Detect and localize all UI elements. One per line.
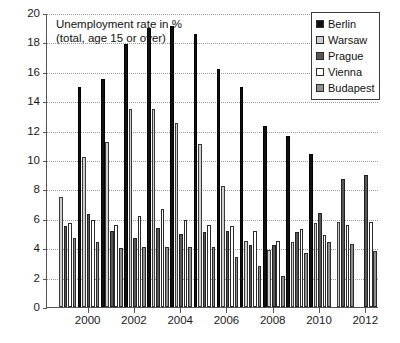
bar-berlin bbox=[217, 69, 221, 307]
x-tick-mark bbox=[365, 308, 366, 313]
bar-berlin bbox=[263, 126, 267, 307]
legend-swatch-prague-icon bbox=[316, 52, 324, 60]
bar-berlin bbox=[286, 136, 290, 307]
legend-swatch-budapest-icon bbox=[316, 84, 324, 92]
y-tick-label: 16 bbox=[6, 67, 40, 79]
x-tick-mark bbox=[88, 308, 89, 313]
bar-vienna bbox=[369, 222, 373, 307]
legend-item-vienna: Vienna bbox=[316, 64, 374, 80]
bar-budapest bbox=[327, 242, 331, 307]
bar-vienna bbox=[300, 229, 304, 307]
bar-berlin bbox=[101, 79, 105, 307]
bar-group bbox=[170, 14, 193, 307]
bar-vienna bbox=[230, 226, 234, 307]
x-tick-label: 2004 bbox=[160, 315, 200, 327]
bar-vienna bbox=[68, 223, 72, 307]
bar-budapest bbox=[304, 253, 308, 307]
bar-warsaw bbox=[175, 123, 179, 307]
bar-budapest bbox=[212, 247, 216, 307]
bar-berlin bbox=[309, 154, 313, 307]
legend-label-warsaw: Warsaw bbox=[328, 35, 367, 46]
bar-budapest bbox=[373, 251, 377, 307]
bar-berlin bbox=[124, 44, 128, 307]
bar-berlin bbox=[78, 87, 82, 308]
bar-budapest bbox=[350, 244, 354, 307]
legend-label-vienna: Vienna bbox=[328, 67, 362, 78]
bar-vienna bbox=[207, 225, 211, 307]
y-tick-label: 6 bbox=[6, 214, 40, 226]
bar-vienna bbox=[276, 241, 280, 307]
bar-group bbox=[216, 14, 239, 307]
legend-swatch-vienna-icon bbox=[316, 68, 324, 76]
bar-berlin bbox=[170, 26, 174, 307]
y-tick-label: 14 bbox=[6, 96, 40, 108]
bar-vienna bbox=[114, 225, 118, 307]
bar-budapest bbox=[142, 247, 146, 307]
bar-group bbox=[77, 14, 100, 307]
bar-warsaw bbox=[337, 222, 341, 307]
x-tick-mark bbox=[319, 308, 320, 313]
bar-prague bbox=[295, 232, 299, 307]
bar-budapest bbox=[188, 247, 192, 307]
legend-item-berlin: Berlin bbox=[316, 16, 374, 32]
bar-group bbox=[285, 14, 308, 307]
legend-label-budapest: Budapest bbox=[328, 83, 374, 94]
bar-vienna bbox=[253, 231, 257, 307]
bar-vienna bbox=[346, 225, 350, 307]
legend-label-berlin: Berlin bbox=[328, 19, 356, 30]
bar-warsaw bbox=[221, 186, 225, 307]
x-tick-mark bbox=[134, 308, 135, 313]
bar-prague bbox=[203, 232, 207, 307]
bar-warsaw bbox=[198, 144, 202, 307]
x-tick-label: 2000 bbox=[68, 315, 108, 327]
bar-vienna bbox=[91, 220, 95, 307]
bar-prague bbox=[133, 238, 137, 307]
legend-item-prague: Prague bbox=[316, 48, 374, 64]
y-tick-label: 18 bbox=[6, 37, 40, 49]
bar-prague bbox=[318, 213, 322, 307]
legend-label-prague: Prague bbox=[328, 51, 363, 62]
bar-warsaw bbox=[314, 223, 318, 307]
bar-warsaw bbox=[152, 109, 156, 307]
bar-prague bbox=[156, 228, 160, 307]
y-tick-mark bbox=[43, 308, 47, 309]
bar-warsaw bbox=[244, 241, 248, 307]
bar-berlin bbox=[194, 34, 198, 307]
bar-prague bbox=[110, 231, 114, 307]
x-tick-mark bbox=[273, 308, 274, 313]
y-tick-label: 4 bbox=[6, 243, 40, 255]
bar-vienna bbox=[184, 220, 188, 307]
bar-budapest bbox=[281, 276, 285, 307]
bar-group bbox=[193, 14, 216, 307]
bar-warsaw bbox=[291, 242, 295, 307]
bar-prague bbox=[87, 214, 91, 307]
bar-group bbox=[262, 14, 285, 307]
bar-prague bbox=[364, 175, 368, 307]
x-tick-label: 2006 bbox=[206, 315, 246, 327]
bar-budapest bbox=[73, 238, 77, 307]
legend-swatch-berlin-icon bbox=[316, 20, 324, 28]
bar-berlin bbox=[147, 28, 151, 307]
legend-swatch-warsaw-icon bbox=[316, 36, 324, 44]
bar-group bbox=[239, 14, 262, 307]
bar-vienna bbox=[161, 209, 165, 307]
bar-budapest bbox=[235, 257, 239, 307]
bar-budapest bbox=[258, 266, 262, 307]
bar-vienna bbox=[138, 216, 142, 307]
legend-item-warsaw: Warsaw bbox=[316, 32, 374, 48]
bar-warsaw bbox=[105, 142, 109, 307]
unemployment-rate-bar-chart: Unemployment rate in % (total, age 15 or… bbox=[0, 0, 400, 343]
bar-budapest bbox=[96, 242, 100, 307]
bar-warsaw bbox=[82, 157, 86, 307]
x-tick-label: 2008 bbox=[253, 315, 293, 327]
bar-prague bbox=[226, 231, 230, 307]
bar-group bbox=[54, 14, 77, 307]
bar-group bbox=[100, 14, 123, 307]
y-tick-label: 10 bbox=[6, 155, 40, 167]
legend: Berlin Warsaw Prague Vienna Budapest bbox=[311, 12, 380, 100]
x-tick-mark bbox=[226, 308, 227, 313]
bar-budapest bbox=[119, 248, 123, 307]
legend-item-budapest: Budapest bbox=[316, 80, 374, 96]
bar-prague bbox=[249, 245, 253, 307]
bar-vienna bbox=[323, 235, 327, 307]
